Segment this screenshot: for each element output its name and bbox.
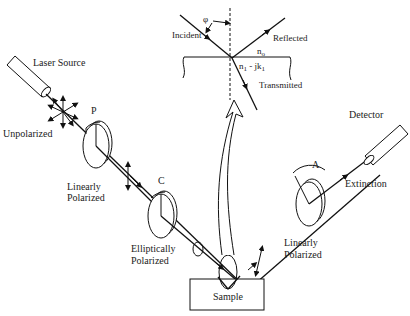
linearly-polarized-label-2a: Linearly [284,237,318,248]
elliptical-polarization-icon [193,242,203,256]
incident-label: Incident [172,30,202,41]
transmitted-label: Transmitted [259,80,302,91]
detector-icon [363,125,408,166]
n1-k1-label: n1 - jk1 [239,61,265,75]
compensator-label: C [158,175,165,186]
analyzer-label: A [312,159,319,170]
laser-source-label: Laser Source [33,57,85,68]
detector-label: Detector [349,109,383,120]
linearly-polarized-label-1b: Polarized [67,192,105,203]
reflected-label: Reflected [273,33,307,44]
reflection-inset [180,8,291,110]
angle-phi-label: φ [203,14,208,25]
ellipsometry-diagram: Laser Source Unpolarized P Linearly Pola… [0,0,410,316]
magnify-arrow-icon [218,100,243,255]
diagram-graphics [0,0,410,316]
elliptically-polarized-label-a: Elliptically [131,243,175,254]
sample-label: Sample [213,291,243,302]
linearly-polarized-label-1a: Linearly [67,181,101,192]
extinction-label: Extinction [345,178,387,189]
elliptically-polarized-label-b: Polarized [131,255,169,266]
unpolarized-label: Unpolarized [3,128,52,139]
n0-label: no [257,46,265,60]
polarizer-label: P [91,105,97,116]
polarizer-disk-icon [83,121,112,168]
linearly-polarized-label-2b: Polarized [284,249,322,260]
